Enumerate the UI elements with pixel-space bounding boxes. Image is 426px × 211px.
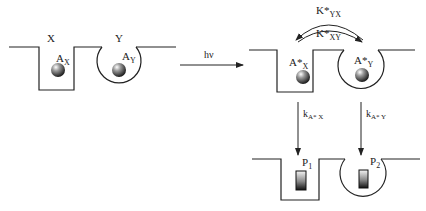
particle-ax-icon [51, 63, 65, 77]
rate-yx-label: K*YX [316, 4, 341, 19]
rate-xy-label: K*XY [316, 27, 341, 42]
particle-ay-label: AY [122, 50, 136, 65]
site-y-label: Y [115, 32, 123, 44]
excitation-label: hν [204, 49, 214, 60]
product-p1-label: P1 [302, 156, 312, 171]
product-p2-label: P2 [370, 155, 380, 170]
site-x-label: X [47, 32, 55, 44]
product-p2-icon [359, 170, 368, 188]
particle-ay-star-icon [355, 68, 369, 82]
particle-ay-icon [112, 63, 126, 77]
diagram-canvas: X Y AX AY hν A*X A*Y K*YX K*XY kA* X kA*… [0, 0, 426, 211]
rate-decay-x-label: kA* X [303, 108, 323, 121]
product-p1-icon [296, 171, 306, 190]
rate-decay-y-label: kA* Y [366, 108, 386, 121]
excited-state-surface [249, 50, 415, 92]
ground-state-surface [9, 47, 176, 90]
particle-ax-star-icon [296, 70, 310, 84]
particle-ay-star-label: A*Y [354, 54, 373, 69]
particle-ax-star-label: A*X [289, 56, 308, 71]
product-state-surface [252, 159, 420, 200]
